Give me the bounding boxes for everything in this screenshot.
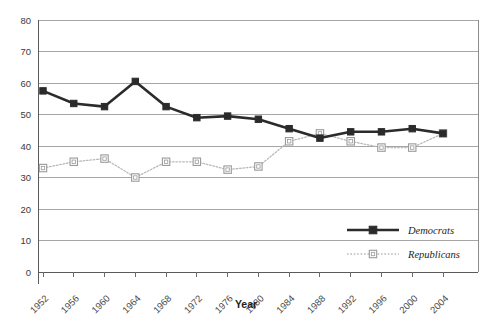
data-point: [132, 78, 138, 84]
legend-swatch-marker: [369, 250, 376, 257]
data-point: [347, 138, 354, 145]
legend-label: Democrats: [407, 225, 454, 236]
y-tick-label: 80: [20, 15, 31, 26]
data-point: [224, 113, 230, 119]
data-point: [163, 103, 169, 109]
data-point: [285, 138, 292, 145]
data-point: [71, 100, 77, 106]
data-point: [255, 163, 262, 170]
y-tick-label: 30: [20, 172, 31, 183]
data-point: [255, 116, 261, 122]
data-point: [132, 174, 139, 181]
data-point: [40, 88, 46, 94]
chart-container: 80706050403020100 1952195619601964196819…: [0, 0, 493, 325]
data-point: [193, 158, 200, 165]
data-point: [162, 158, 169, 165]
line-chart: 80706050403020100 1952195619601964196819…: [0, 0, 493, 325]
data-point: [440, 130, 446, 136]
data-point: [101, 103, 107, 109]
data-point: [70, 158, 77, 165]
y-tick-label: 70: [20, 46, 31, 57]
data-point: [347, 129, 353, 135]
data-point: [39, 164, 46, 171]
data-point: [409, 125, 415, 131]
data-point: [409, 144, 416, 151]
y-tick-label: 60: [20, 78, 31, 89]
data-point: [286, 125, 292, 131]
data-point: [378, 144, 385, 151]
data-point: [317, 135, 323, 141]
legend-swatch-marker: [369, 226, 377, 234]
data-point: [101, 155, 108, 162]
data-point: [194, 114, 200, 120]
y-tick-label: 10: [20, 235, 31, 246]
y-tick-label: 40: [20, 141, 31, 152]
legend-label: Republicans: [407, 249, 460, 260]
y-axis-tick-labels: 80706050403020100: [20, 15, 31, 278]
y-tick-label: 0: [26, 267, 31, 278]
y-tick-label: 20: [20, 204, 31, 215]
x-axis-title: Year: [235, 298, 257, 310]
data-point: [378, 129, 384, 135]
y-tick-label: 50: [20, 109, 31, 120]
data-point: [224, 166, 231, 173]
